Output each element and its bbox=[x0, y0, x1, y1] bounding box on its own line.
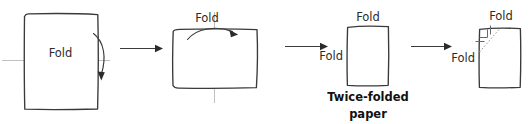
step-1-group: Fold bbox=[2, 14, 110, 110]
step-1-paper-outline bbox=[24, 14, 98, 110]
flow-arrow-1-head bbox=[155, 45, 163, 52]
twice-folded-caption-line2: paper bbox=[349, 107, 387, 121]
flow-arrow-1 bbox=[120, 45, 163, 52]
step-1-fold-label: Fold bbox=[49, 46, 73, 60]
paper-folding-diagram: Fold Fold Fold Fold Twice-folded paper bbox=[0, 0, 531, 124]
flow-arrow-3-head bbox=[444, 43, 452, 50]
step-4-fold-label-top: Fold bbox=[489, 9, 513, 23]
step-3-fold-label-left: Fold bbox=[319, 49, 343, 63]
step-3-fold-label-top: Fold bbox=[356, 10, 380, 24]
flow-arrow-3 bbox=[411, 43, 452, 50]
step-2-fold-label: Fold bbox=[195, 11, 219, 25]
twice-folded-caption-line1: Twice-folded bbox=[327, 90, 409, 104]
step-3-paper-outline bbox=[347, 26, 389, 86]
step-2-group: Fold bbox=[173, 11, 258, 103]
step-2-paper-outline bbox=[173, 29, 258, 88]
step-3-group: Fold Fold Twice-folded paper bbox=[319, 10, 409, 121]
step-4-fold-label-left: Fold bbox=[451, 51, 475, 65]
step-4-group: Fold Fold bbox=[451, 9, 520, 88]
